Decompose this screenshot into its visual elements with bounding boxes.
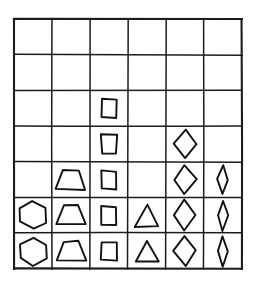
diamond-icon — [174, 200, 196, 231]
square-icon — [101, 170, 116, 189]
glyph-layer — [20, 99, 229, 267]
hexagon-icon — [20, 201, 46, 229]
grid-layer — [14, 19, 242, 269]
grid-row-line-4 — [14, 161, 242, 162]
triangle-icon — [135, 205, 158, 227]
diamond-icon — [174, 130, 197, 158]
grid-row-line-1 — [14, 54, 242, 55]
shape-pictogram-figure — [0, 0, 256, 284]
square-icon — [102, 99, 117, 118]
hexagon-icon — [20, 238, 47, 266]
square-icon — [101, 134, 117, 153]
triangle-icon — [136, 241, 159, 262]
grid-column-line-3 — [127, 19, 128, 269]
trapezoid-icon — [57, 241, 87, 261]
narrow-diamond-icon — [218, 201, 228, 231]
pictogram-chart-canvas — [0, 0, 256, 284]
narrow-diamond-icon — [217, 165, 228, 194]
narrow-diamond-icon — [218, 236, 228, 266]
trapezoid-icon — [56, 205, 85, 224]
grid-column-line-4 — [166, 19, 167, 269]
diamond-icon — [173, 236, 196, 266]
square-icon — [101, 242, 117, 260]
trapezoid-icon — [56, 170, 85, 190]
grid-column-line-6 — [242, 19, 243, 269]
square-icon — [101, 206, 116, 225]
diamond-icon — [174, 165, 196, 194]
